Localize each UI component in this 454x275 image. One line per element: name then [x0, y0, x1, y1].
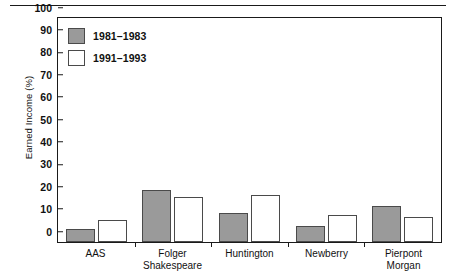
- y-tick-label: 100: [34, 2, 58, 13]
- y-tick-label: 20: [40, 181, 58, 192]
- legend-swatch-icon: [68, 50, 85, 66]
- y-tick-label: 10: [40, 204, 58, 215]
- chart-figure: Earned Income (%) 1009080706050403020100…: [0, 0, 454, 275]
- y-tick-label: 0: [46, 226, 58, 237]
- y-tick-label: 80: [40, 47, 58, 58]
- bar: [142, 190, 171, 242]
- y-tick-label: 40: [40, 137, 58, 148]
- x-tick-mark: [364, 242, 365, 247]
- x-axis-labels: AASFolger ShakespeareHuntingtonNewberryP…: [57, 248, 442, 271]
- y-tick-label: 90: [40, 25, 58, 36]
- bar: [174, 197, 203, 242]
- x-axis-category-label: Newberry: [291, 248, 363, 271]
- bar-group: [296, 18, 357, 242]
- bar: [372, 206, 401, 242]
- y-tick-label: 50: [40, 114, 58, 125]
- legend-item: 1981–1983: [68, 28, 146, 44]
- bar: [296, 226, 325, 242]
- chart-legend: 1981–19831991–1993: [68, 28, 146, 72]
- legend-item: 1991–1993: [68, 50, 146, 66]
- header-rule: [10, 5, 446, 6]
- y-tick-label: 70: [40, 69, 58, 80]
- bar: [219, 213, 248, 242]
- y-tick-label: 60: [40, 92, 58, 103]
- bar-group: [142, 18, 203, 242]
- y-axis-title: Earned Income (%): [23, 38, 34, 198]
- legend-swatch-icon: [68, 28, 85, 44]
- bar-group: [372, 18, 433, 242]
- bar: [66, 229, 95, 242]
- legend-label: 1991–1993: [93, 52, 146, 64]
- legend-label: 1981–1983: [93, 30, 146, 42]
- x-axis-category-label: Folger Shakespeare: [137, 248, 209, 271]
- y-tick-label: 30: [40, 159, 58, 170]
- x-axis-category-label: Pierpont Morgan: [368, 248, 440, 271]
- x-tick-mark: [211, 242, 212, 247]
- x-tick-mark: [288, 242, 289, 247]
- bar: [404, 217, 433, 242]
- bar: [251, 195, 280, 242]
- x-tick-mark: [135, 242, 136, 247]
- bar-group: [219, 18, 280, 242]
- bar: [328, 215, 357, 242]
- y-tick-mark: [58, 7, 63, 8]
- x-axis-category-label: AAS: [60, 248, 132, 271]
- x-axis-category-label: Huntington: [214, 248, 286, 271]
- bar: [98, 220, 127, 242]
